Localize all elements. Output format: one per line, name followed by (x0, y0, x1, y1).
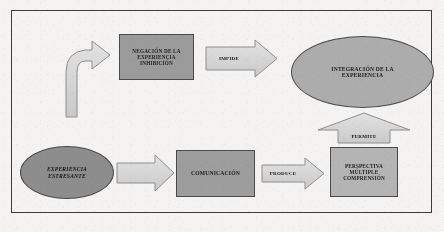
node-negacion-label: NEGACIÓN DE LA EXPERIENCIA INHIBICIÓN (132, 48, 180, 66)
arrow-label-impide: IMPIDE (206, 52, 252, 65)
node-integracion-label: INTEGRACIÓN DE LA EXPERIENCIA (331, 66, 393, 79)
diagram-canvas: IMPIDE PRODUCE PERMITE NEGACIÓN DE LA EX… (0, 0, 444, 232)
node-negacion-experiencia: NEGACIÓN DE LA EXPERIENCIA INHIBICIÓN (119, 34, 194, 80)
node-comunicacion: COMUNICACIÓN (176, 150, 255, 197)
curved-up-right-arrow (66, 41, 110, 117)
comunicacion-arrow (117, 155, 174, 191)
node-perspectiva-multiple: PERSPECTIVA MÚLTIPLE COMPRENSIÓN (330, 147, 398, 197)
arrow-label-permite: PERMITE (338, 130, 390, 143)
node-experiencia-label: EXPERIENCIA ESTRESANTE (47, 166, 87, 179)
node-integracion-experiencia: INTEGRACIÓN DE LA EXPERIENCIA (291, 36, 434, 108)
arrow-label-produce: PRODUCE (262, 167, 304, 179)
node-perspectiva-label: PERSPECTIVA MÚLTIPLE COMPRENSIÓN (343, 163, 385, 181)
node-experiencia-estresante: EXPERIENCIA ESTRESANTE (20, 146, 114, 199)
node-comunicacion-label: COMUNICACIÓN (191, 170, 240, 176)
